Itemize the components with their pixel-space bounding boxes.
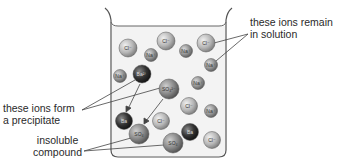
ion-label: Na⁺ (206, 108, 215, 114)
ion-label: Na⁺ (193, 80, 202, 86)
ion-na: Na⁺ (114, 70, 127, 83)
label-insoluble-line1: insoluble (33, 134, 82, 146)
ion-label: Ba (121, 118, 127, 124)
ion-label: Ba (187, 129, 193, 135)
label-remain-line2: in solution (250, 28, 333, 40)
ion-na: Na⁺ (145, 49, 158, 62)
ion-label: Cl⁻ (157, 118, 165, 124)
ion-label: Na⁺ (115, 73, 124, 79)
ion-ba: Ba (182, 124, 199, 141)
ion-so4: SO₄ (129, 124, 149, 144)
ion-label: Cl⁻ (185, 103, 193, 109)
ion-label: Na⁺ (181, 48, 190, 54)
ion-label: Cl⁻ (208, 137, 216, 143)
ion-cl: Cl⁻ (153, 113, 170, 130)
ion-label: Na⁺ (206, 62, 215, 68)
diagram-precipitation: Cl⁻Cl⁻Cl⁻Na⁺Na⁺Na⁺Na⁺Na⁺Ba²⁺SO₄²⁻Cl⁻Na⁺C… (0, 0, 342, 168)
ion-label: Cl⁻ (202, 40, 210, 46)
label-remain-in-solution: these ions remain in solution (250, 16, 333, 40)
ion-na: Na⁺ (192, 77, 205, 90)
ion-ba: Ba (116, 113, 133, 130)
label-insoluble-line2: compound (33, 146, 82, 158)
label-precipitate-line2: a precipitate (3, 114, 75, 126)
ion-so4: SO₄ (163, 133, 183, 153)
ion-na: Na⁺ (180, 45, 193, 58)
ion-cl: Cl⁻ (157, 32, 175, 50)
ion-label: Na⁺ (146, 52, 155, 58)
ion-so4: SO₄²⁻ (159, 79, 179, 99)
ion-cl: Cl⁻ (181, 98, 198, 115)
ion-label: Cl⁻ (162, 38, 170, 44)
ion-cl: Cl⁻ (197, 34, 215, 52)
ion-na: Na⁺ (205, 59, 218, 72)
label-insoluble-compound: insoluble compound (33, 134, 82, 158)
ion-label: SO₄ (134, 131, 143, 137)
ion-label: Cl⁻ (124, 45, 132, 51)
ion-label: Ba²⁺ (137, 71, 148, 77)
ion-label: SO₄²⁻ (162, 86, 176, 92)
label-remain-line1: these ions remain (250, 16, 333, 28)
label-form-precipitate: these ions form a precipitate (3, 102, 75, 126)
label-precipitate-line1: these ions form (3, 102, 75, 114)
water-line (111, 22, 226, 26)
ion-label: SO₄ (168, 140, 177, 146)
ion-cl: Cl⁻ (119, 39, 137, 57)
ion-cl: Cl⁻ (204, 132, 221, 149)
ion-na: Na⁺ (205, 105, 218, 118)
ion-ba: Ba²⁺ (133, 65, 151, 83)
